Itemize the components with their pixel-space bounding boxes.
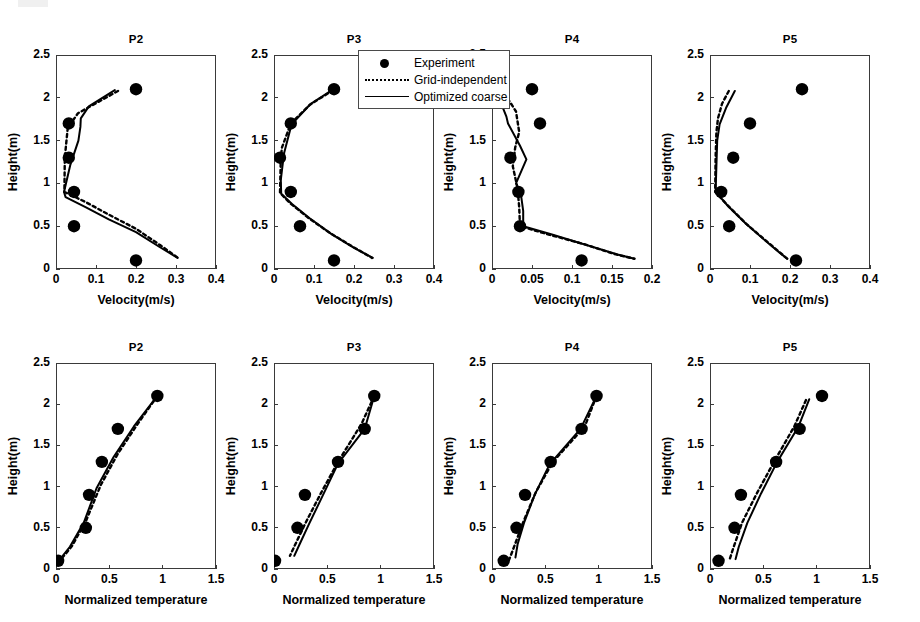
- data-point-marker: [723, 220, 735, 232]
- data-point-marker: [526, 83, 538, 95]
- data-point-marker: [130, 254, 142, 266]
- data-point-marker: [575, 254, 587, 266]
- data-point-marker: [735, 489, 747, 501]
- series-layer: [658, 33, 888, 309]
- data-point-marker: [727, 152, 739, 164]
- data-point-marker: [744, 117, 756, 129]
- data-point-marker: [130, 83, 142, 95]
- legend-label: Optimized coarse: [410, 90, 507, 104]
- series-line-dotted: [715, 91, 787, 259]
- legend-item-marker: Experiment: [364, 54, 502, 71]
- series-layer: [658, 341, 888, 609]
- chart-panel-temperature-p3: P300.511.500.511.522.5Normalized tempera…: [222, 341, 452, 609]
- legend-item-solid: Optimized coarse: [364, 88, 502, 105]
- data-point-marker: [790, 254, 802, 266]
- legend-item-dotted: Grid-independent: [364, 71, 502, 88]
- legend-label: Grid-independent: [410, 73, 507, 87]
- series-line-dotted: [509, 396, 596, 560]
- series-line-solid: [716, 91, 788, 259]
- series-layer: [222, 341, 452, 609]
- scan-artifact: [18, 0, 48, 7]
- data-point-marker: [285, 186, 297, 198]
- data-point-marker: [294, 220, 306, 232]
- data-point-marker: [68, 186, 80, 198]
- data-point-marker: [328, 254, 340, 266]
- data-point-marker: [534, 117, 546, 129]
- data-point-marker: [498, 555, 510, 567]
- data-point-marker: [299, 489, 311, 501]
- series-line-dotted: [59, 396, 157, 562]
- series-layer: [440, 341, 670, 609]
- legend-key: [364, 89, 410, 104]
- legend-label: Experiment: [410, 56, 475, 70]
- data-point-marker: [112, 423, 124, 435]
- chart-panel-velocity-p5: P500.10.20.30.400.511.522.5Velocity(m/s)…: [658, 33, 888, 309]
- series-line-dotted: [280, 90, 372, 258]
- series-line-solid: [58, 396, 157, 562]
- legend-key: [364, 72, 410, 87]
- data-point-marker: [96, 456, 108, 468]
- legend: ExperimentGrid-independentOptimized coar…: [358, 50, 510, 109]
- series-layer: [4, 33, 234, 309]
- legend-dotted-line-icon: [365, 79, 409, 81]
- chart-panel-temperature-p5: P500.511.500.511.522.5Normalized tempera…: [658, 341, 888, 609]
- data-point-marker: [712, 555, 724, 567]
- data-point-marker: [816, 390, 828, 402]
- series-line-solid: [281, 89, 373, 258]
- data-point-marker: [269, 555, 281, 567]
- chart-panel-temperature-p4: P400.511.500.511.522.5Normalized tempera…: [440, 341, 670, 609]
- chart-panel-velocity-p2: P200.10.20.30.400.511.522.5Velocity(m/s)…: [4, 33, 234, 309]
- series-line-solid: [502, 88, 635, 259]
- data-point-marker: [68, 220, 80, 232]
- series-line-solid: [515, 396, 596, 558]
- data-point-marker: [519, 489, 531, 501]
- series-line-solid: [64, 90, 178, 258]
- data-point-marker: [796, 83, 808, 95]
- legend-solid-line-icon: [365, 96, 409, 97]
- chart-panel-temperature-p2: P200.511.500.511.522.5Normalized tempera…: [4, 341, 234, 609]
- legend-key: [364, 55, 410, 70]
- series-layer: [4, 341, 234, 609]
- legend-marker-icon: [380, 59, 389, 68]
